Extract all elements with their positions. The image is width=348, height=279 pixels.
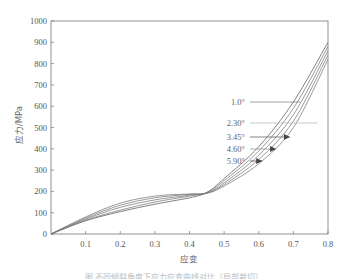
annotation-label: 1.0° [231, 97, 245, 107]
annotation-label: 4.60° [227, 144, 245, 154]
x-tick-label: 0.4 [184, 239, 195, 249]
x-tick-label: 0.2 [115, 239, 126, 249]
x-tick-label: 0.1 [80, 239, 91, 249]
y-axis-label: 应力/MPa [14, 106, 24, 144]
plot-frame [51, 21, 328, 234]
curve-5.90° [51, 59, 328, 234]
arrow-icon [284, 134, 290, 140]
y-tick-label: 500 [34, 123, 47, 133]
y-tick-label: 800 [34, 59, 47, 69]
plot-border [51, 21, 328, 234]
y-tick-label: 600 [34, 101, 47, 111]
y-tick-label: 0 [43, 229, 47, 239]
curve-3.45° [51, 51, 328, 234]
y-axis-ticks: 01002003004005006007008009001000 [30, 16, 54, 239]
stress-strain-chart: 01002003004005006007008009001000 0.10.20… [0, 0, 348, 279]
x-tick-label: 0.3 [150, 239, 161, 249]
x-tick-label: 0.5 [219, 239, 230, 249]
y-tick-label: 700 [34, 80, 47, 90]
annotation-label: 5.90° [227, 156, 245, 166]
annotation-label: 3.45° [227, 132, 245, 142]
y-tick-label: 1000 [30, 16, 47, 26]
y-tick-label: 200 [34, 186, 47, 196]
curve-4.60° [51, 55, 328, 234]
x-tick-label: 0.7 [288, 239, 299, 249]
y-tick-label: 300 [34, 165, 47, 175]
annotation-label: 2.30° [227, 118, 245, 128]
x-axis-label: 应变 [180, 254, 198, 264]
y-tick-label: 400 [34, 144, 47, 154]
y-tick-label: 100 [34, 208, 47, 218]
figure-caption: 图 不同倾斜角度下应力应变曲线对比（局部裁切） [0, 271, 348, 279]
y-tick-label: 900 [34, 37, 47, 47]
x-tick-label: 0.6 [253, 239, 264, 249]
curve-2.30° [51, 47, 328, 234]
x-tick-label: 0.8 [323, 239, 334, 249]
